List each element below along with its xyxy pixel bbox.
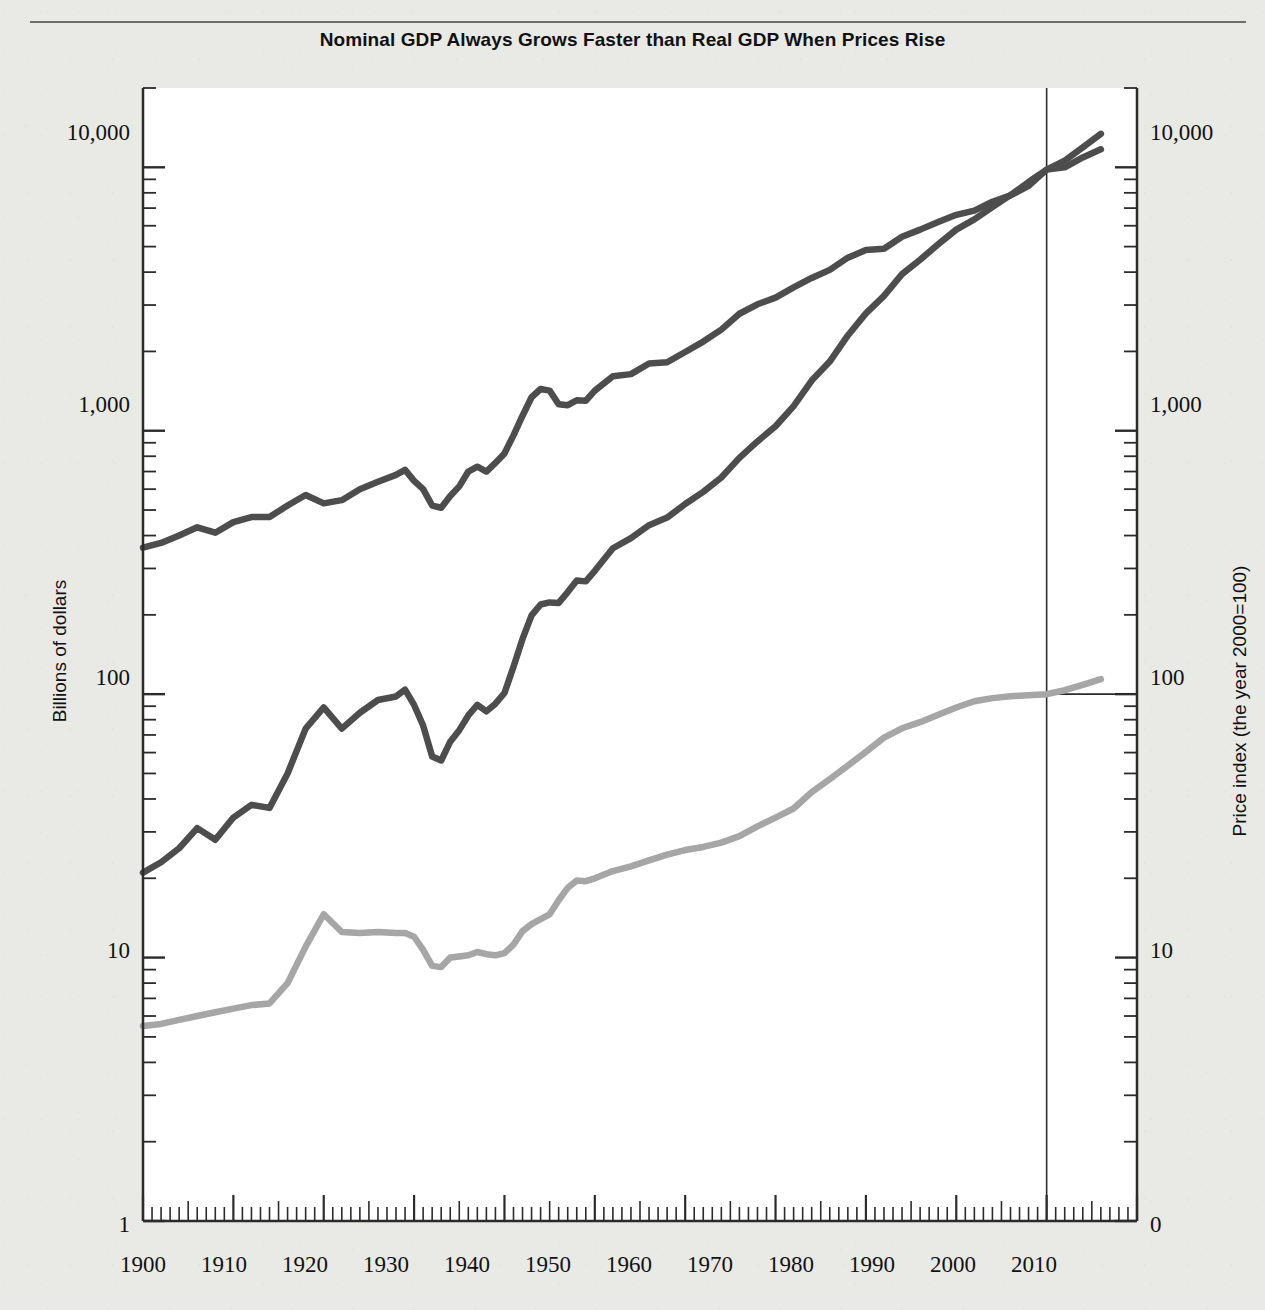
plot-canvas — [0, 0, 1265, 1310]
plot-background — [143, 88, 1137, 1221]
gdp-chart-figure: Billions of dollars Price index (the yea… — [0, 0, 1265, 1310]
